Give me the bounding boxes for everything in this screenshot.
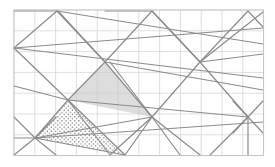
lattice-diagram xyxy=(0,0,275,167)
figure-root xyxy=(0,0,275,167)
